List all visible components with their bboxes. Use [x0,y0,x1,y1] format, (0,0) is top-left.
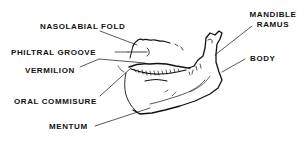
leader-oral-commisure [100,68,131,96]
label-mandible: MANDIBLE [244,10,302,19]
leader-mentum [95,108,150,126]
leader-ramus [215,26,252,55]
label-ramus: RAMUS [244,20,302,29]
label-mentum: MENTUM [49,122,88,131]
leader-body [222,59,245,72]
leader-nasolabial [100,31,137,45]
leader-vermilion [80,59,145,67]
anatomy-diagram: NASOLABIAL FOLD PHILTRAL GROOVE VERMILIO… [0,0,306,141]
label-nasolabial-fold: NASOLABIAL FOLD [40,22,125,31]
label-vermilion: VERMILION [25,66,75,75]
label-body: BODY [250,54,276,63]
label-philtral-groove: PHILTRAL GROOVE [11,48,96,57]
label-oral-commisure: ORAL COMMISURE [14,97,97,106]
